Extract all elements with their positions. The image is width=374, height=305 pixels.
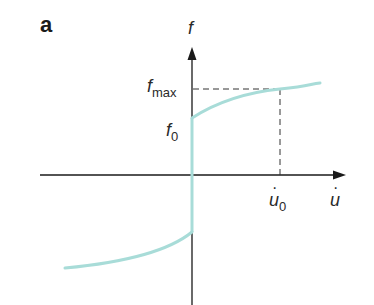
panel-label: a [40, 12, 52, 38]
x-axis-label: u [330, 190, 340, 211]
friction-diagram [0, 0, 374, 305]
fmax-label: fmax [147, 76, 177, 97]
f0-subscript: 0 [171, 129, 178, 144]
x-axis-symbol: u [330, 190, 340, 211]
fmax-subscript: max [152, 85, 177, 100]
curve-positive-branch [192, 83, 320, 118]
u0-subscript: 0 [279, 199, 286, 214]
u0-label: u0 [269, 190, 286, 211]
u0-base: u [269, 190, 279, 211]
curve-negative-branch [65, 232, 192, 268]
y-axis-label: f [188, 18, 193, 39]
f0-label: f0 [166, 120, 178, 141]
y-axis-arrow-icon [188, 47, 197, 60]
